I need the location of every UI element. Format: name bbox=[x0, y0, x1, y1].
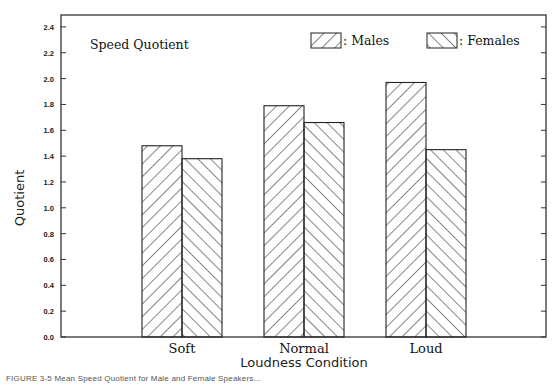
y-tick-label: 0.8 bbox=[44, 230, 54, 239]
y-tick-label: 2.4 bbox=[44, 23, 55, 32]
y-tick-label: 0.6 bbox=[44, 255, 54, 264]
legend-item-females: : Females bbox=[427, 33, 520, 48]
y-tick-label: 1.4 bbox=[44, 152, 55, 161]
y-tick-label: 0.0 bbox=[44, 333, 54, 342]
legend-label-females: : Females bbox=[459, 33, 520, 48]
chart-title: Speed Quotient bbox=[90, 37, 189, 52]
legend-label-males: : Males bbox=[343, 33, 389, 48]
legend-item-males: : Males bbox=[311, 33, 389, 48]
x-tick-label: Loud bbox=[409, 341, 442, 356]
legend-swatch-females bbox=[427, 33, 457, 48]
bar-soft-males bbox=[142, 146, 182, 337]
x-axis-label: Loudness Condition bbox=[240, 355, 367, 370]
y-tick-label: 1.2 bbox=[44, 178, 54, 187]
x-tick-label: Normal bbox=[279, 341, 329, 356]
y-tick-label: 0.4 bbox=[44, 281, 55, 290]
x-axis-labels: SoftNormalLoud bbox=[169, 341, 443, 356]
bar-group bbox=[142, 82, 466, 337]
y-tick-label: 2.0 bbox=[44, 75, 54, 84]
y-tick-label: 1.8 bbox=[44, 100, 54, 109]
legend: : Males : Females bbox=[311, 33, 520, 48]
bar-soft-females bbox=[182, 159, 222, 337]
y-tick-label: 0.2 bbox=[44, 307, 54, 316]
y-tick-label: 1.6 bbox=[44, 126, 54, 135]
bar-normal-males bbox=[264, 106, 304, 337]
bar-loud-females bbox=[426, 150, 466, 337]
figure-caption: FIGURE 3-5 Mean Speed Quotient for Male … bbox=[6, 374, 261, 383]
bar-normal-females bbox=[304, 123, 344, 337]
y-tick-label: 1.0 bbox=[44, 204, 54, 213]
legend-swatch-males bbox=[311, 33, 341, 48]
x-tick-label: Soft bbox=[169, 341, 197, 356]
bar-loud-males bbox=[386, 82, 426, 337]
bar-chart: 0.00.20.40.60.81.01.21.41.61.82.02.22.4 … bbox=[0, 0, 560, 387]
y-axis-label: Quotient bbox=[12, 170, 27, 226]
y-tick-label: 2.2 bbox=[44, 49, 54, 58]
